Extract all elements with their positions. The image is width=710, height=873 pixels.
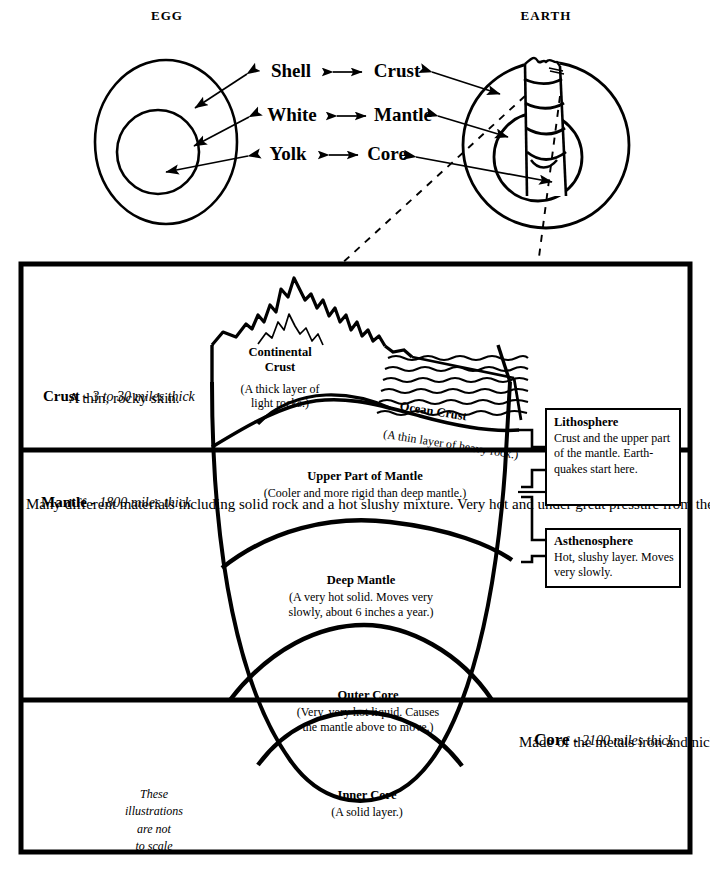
callout-body-lithosphere: Crust and the upper part of the mantle. … <box>547 431 679 477</box>
zone-desc-continental-crust: (A thick layer of light rocks.) <box>241 382 320 411</box>
pair-label-earth-1: Mantle <box>374 104 432 126</box>
callout-box-lithosphere: Lithosphere Crust and the upper part of … <box>545 408 681 506</box>
mantle-description: Many different materials including solid… <box>26 495 211 514</box>
earth-title: EARTH <box>521 8 572 23</box>
callout-title-asthenosphere: Asthenosphere <box>547 530 679 550</box>
scale-note: These illustrations are not to scale <box>125 786 183 856</box>
pair-label-egg-1: White <box>267 104 317 126</box>
pair-label-earth-0: Crust <box>374 60 420 82</box>
zone-label-inner-core: Inner Core <box>338 788 397 803</box>
zone-desc-deep-mantle: (A very hot solid. Moves very slowly, ab… <box>289 590 434 619</box>
globe-wedge-cutaway <box>524 58 566 196</box>
crust-description: A thin, rocky skin. <box>28 390 220 408</box>
callout-body-asthenosphere: Hot, slushy layer. Moves very slowly. <box>547 550 679 581</box>
pair-label-earth-2: Core <box>367 143 407 165</box>
callout-box-asthenosphere: Asthenosphere Hot, slushy layer. Moves v… <box>545 528 681 588</box>
zone-label-outer-core: Outer Core <box>338 688 399 703</box>
zone-desc-inner-core: (A solid layer.) <box>331 805 403 819</box>
zone-label-continental-crust: Continental Crust <box>248 345 311 375</box>
core-description: Made of the metals iron and nickel. Due … <box>519 733 691 753</box>
zone-label-upper-mantle: Upper Part of Mantle <box>307 469 422 484</box>
zone-label-deep-mantle: Deep Mantle <box>327 573 395 588</box>
earth-globe-illustration <box>463 58 629 228</box>
callout-title-lithosphere: Lithosphere <box>547 410 679 431</box>
earth-structure-diagram: EGG EARTH Shell Crust White Mantle Yolk … <box>0 0 710 873</box>
pair-label-egg-2: Yolk <box>270 143 307 165</box>
zone-desc-outer-core: (Very, very hot liquid. Causes the mantl… <box>297 705 440 734</box>
egg-illustration <box>95 60 237 224</box>
egg-title: EGG <box>151 8 183 23</box>
pair-label-egg-0: Shell <box>271 60 311 82</box>
zone-desc-upper-mantle: (Cooler and more rigid than deep mantle.… <box>264 486 466 500</box>
